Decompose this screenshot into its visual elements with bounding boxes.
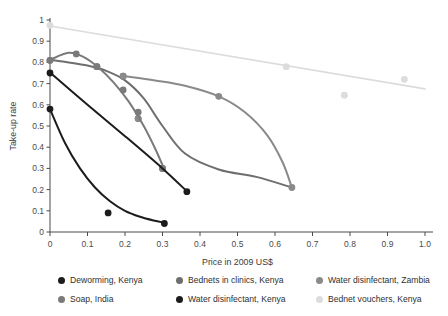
x-axis-title: Price in 2009 US$ (202, 257, 273, 267)
data-point (341, 92, 348, 99)
legend-marker-icon (176, 296, 183, 303)
x-tick-label: 0.8 (344, 239, 356, 249)
chart-legend: Deworming, KenyaBednets in clinics, Keny… (58, 271, 448, 309)
y-axis-title: Take-up rate (8, 101, 18, 150)
x-tick-label: 0.9 (382, 239, 394, 249)
series-line (50, 109, 164, 223)
x-tick-label: 1.0 (419, 239, 431, 249)
legend-item[interactable]: Bednet vouchers, Kenya (316, 295, 448, 304)
data-point (47, 70, 54, 77)
legend-marker-icon (58, 277, 65, 284)
x-tick-label: 0.1 (82, 239, 94, 249)
data-point (47, 57, 54, 64)
series-soap-india (47, 51, 166, 172)
y-tick-label: 0.8 (32, 57, 44, 67)
y-tick-label: 0.6 (32, 100, 44, 110)
series-line (50, 26, 425, 89)
y-tick-label: 0.5 (32, 121, 44, 131)
y-tick-label: 0.3 (32, 163, 44, 173)
legend-marker-icon (316, 296, 323, 303)
legend-marker-icon (316, 277, 323, 284)
data-point (47, 22, 54, 29)
data-point (401, 76, 408, 83)
data-point (47, 106, 54, 113)
legend-item[interactable]: Bednets in clinics, Kenya (176, 276, 316, 285)
legend-item[interactable]: Soap, India (58, 295, 176, 304)
data-point (73, 51, 80, 58)
legend-label: Water disinfectant, Zambia (328, 276, 430, 285)
legend-item[interactable]: Water disinfectant, Zambia (316, 276, 448, 285)
legend-marker-icon (58, 296, 65, 303)
data-point (161, 220, 168, 227)
scatter-plot: 00.10.20.30.40.50.60.70.80.9100.10.20.30… (0, 0, 448, 316)
series-line (125, 76, 292, 187)
legend-label: Bednet vouchers, Kenya (328, 295, 422, 304)
y-tick-label: 0.4 (32, 142, 44, 152)
x-tick-label: 0.7 (307, 239, 319, 249)
legend-label: Deworming, Kenya (70, 276, 143, 285)
data-point (288, 184, 295, 191)
data-point (120, 87, 127, 94)
data-point (135, 109, 142, 116)
y-tick-label: 0.2 (32, 185, 44, 195)
y-tick-label: 0.7 (32, 79, 44, 89)
y-tick-label: 0.1 (32, 206, 44, 216)
x-tick-label: 0.4 (194, 239, 206, 249)
legend-item[interactable]: Deworming, Kenya (58, 276, 176, 285)
y-tick-label: 0.9 (32, 36, 44, 46)
x-tick-label: 0.5 (232, 239, 244, 249)
data-point (283, 63, 290, 70)
legend-item[interactable]: Water disinfectant, Kenya (176, 295, 316, 304)
legend-label: Soap, India (70, 295, 113, 304)
x-tick-label: 0.2 (119, 239, 131, 249)
data-point (183, 188, 190, 195)
data-point (105, 210, 112, 217)
legend-label: Water disinfectant, Kenya (188, 295, 286, 304)
y-tick-label: 0 (39, 227, 44, 237)
legend-marker-icon (176, 277, 183, 284)
series-bednet-vouchers-kenya (47, 22, 425, 99)
data-point (120, 73, 127, 80)
y-tick-label: 1 (39, 15, 44, 25)
series-line (50, 60, 292, 188)
x-tick-label: 0 (48, 239, 53, 249)
series-deworming-kenya (47, 106, 168, 227)
chart-container: 00.10.20.30.40.50.60.70.80.9100.10.20.30… (0, 0, 448, 316)
x-tick-label: 0.3 (157, 239, 169, 249)
data-point (215, 93, 222, 100)
legend-label: Bednets in clinics, Kenya (188, 276, 284, 285)
data-point (93, 63, 100, 70)
x-tick-label: 0.6 (269, 239, 281, 249)
